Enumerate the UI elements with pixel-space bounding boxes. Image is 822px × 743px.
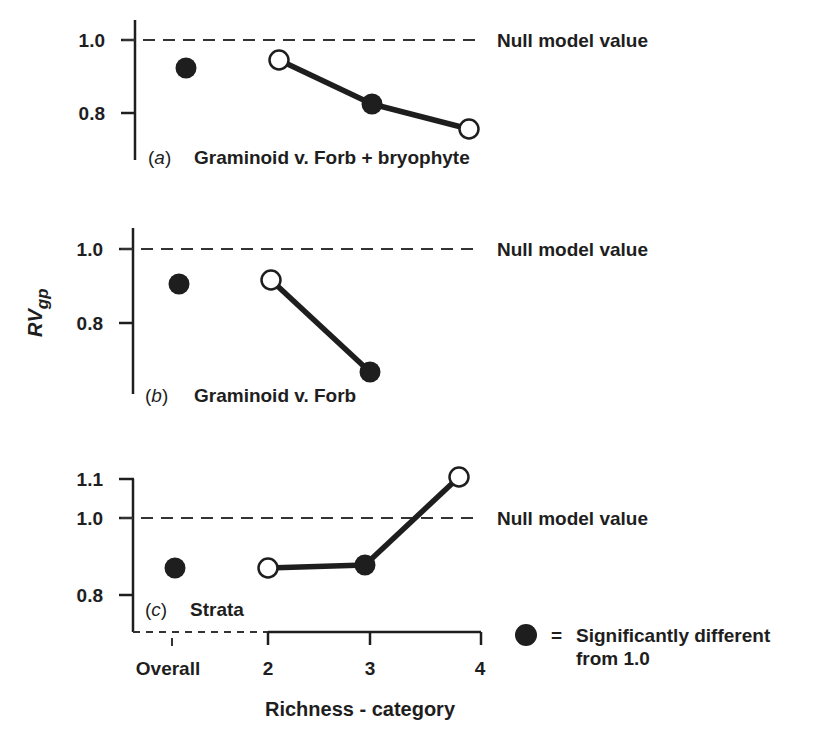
panel-b-point-2 xyxy=(262,271,281,290)
legend-filled-circle-icon xyxy=(515,624,537,646)
panel-c-point-3 xyxy=(355,555,376,576)
panel-c-series-line xyxy=(268,565,365,568)
legend: = Significantly different from 1.0 xyxy=(515,624,771,669)
legend-equals: = xyxy=(551,625,562,646)
x-tick-label-4: 4 xyxy=(475,658,486,679)
x-tick-label-3: 3 xyxy=(365,658,376,679)
panel-a-tick-label-1.0: 1.0 xyxy=(79,30,105,51)
panel-a-title: Graminoid v. Forb + bryophyte xyxy=(194,147,470,168)
panel-b-label: (b) xyxy=(145,385,168,406)
panel-c: 1.1 1.0 0.8 Null model value (c) Strata xyxy=(77,468,648,633)
x-tick-label-2: 2 xyxy=(263,658,274,679)
panel-b-title: Graminoid v. Forb xyxy=(194,385,356,406)
x-axis: Overall 2 3 4 Richness - category xyxy=(133,632,486,720)
legend-text-line1: Significantly different xyxy=(576,625,771,646)
panel-c-null-label: Null model value xyxy=(497,508,648,529)
panel-c-label: (c) xyxy=(145,599,167,620)
panel-b-series-line xyxy=(271,280,370,372)
panel-c-tick-label-1.0: 1.0 xyxy=(77,508,103,529)
x-tick-label-overall: Overall xyxy=(136,658,200,679)
panel-a-tick-label-0.8: 0.8 xyxy=(79,103,105,124)
panel-a-series-line xyxy=(279,60,372,104)
panel-a-overall-point xyxy=(176,58,197,79)
panel-a-point-3 xyxy=(362,94,383,115)
panel-b-overall-point xyxy=(169,274,190,295)
panel-c-overall-point xyxy=(165,558,186,579)
panel-b-tick-label-1.0: 1.0 xyxy=(77,239,103,260)
panel-b-tick-label-0.8: 0.8 xyxy=(77,313,103,334)
panel-a: 1.0 0.8 Null model value (a) Graminoid v… xyxy=(79,20,648,168)
legend-text-line2: from 1.0 xyxy=(576,648,650,669)
panel-a-point-4 xyxy=(460,120,479,139)
panel-a-series-line xyxy=(372,104,469,129)
x-axis-title: Richness - category xyxy=(265,698,456,720)
panel-c-series-line xyxy=(365,477,459,565)
figure-canvas: 1.0 0.8 Null model value (a) Graminoid v… xyxy=(0,0,822,743)
panel-c-point-2 xyxy=(259,559,278,578)
panel-c-tick-label-0.8: 0.8 xyxy=(77,585,103,606)
panel-a-null-label: Null model value xyxy=(497,30,648,51)
panel-b-point-3 xyxy=(360,362,381,383)
panel-b: 1.0 0.8 Null model value (b) Graminoid v… xyxy=(77,228,648,406)
panel-c-title: Strata xyxy=(190,599,244,620)
panel-c-tick-label-1.1: 1.1 xyxy=(77,469,104,490)
panel-b-null-label: Null model value xyxy=(497,239,648,260)
panel-c-point-4 xyxy=(450,468,469,487)
panel-a-label: (a) xyxy=(148,147,171,168)
y-axis-title: RVgp xyxy=(24,288,52,337)
panel-a-point-2 xyxy=(270,51,289,70)
